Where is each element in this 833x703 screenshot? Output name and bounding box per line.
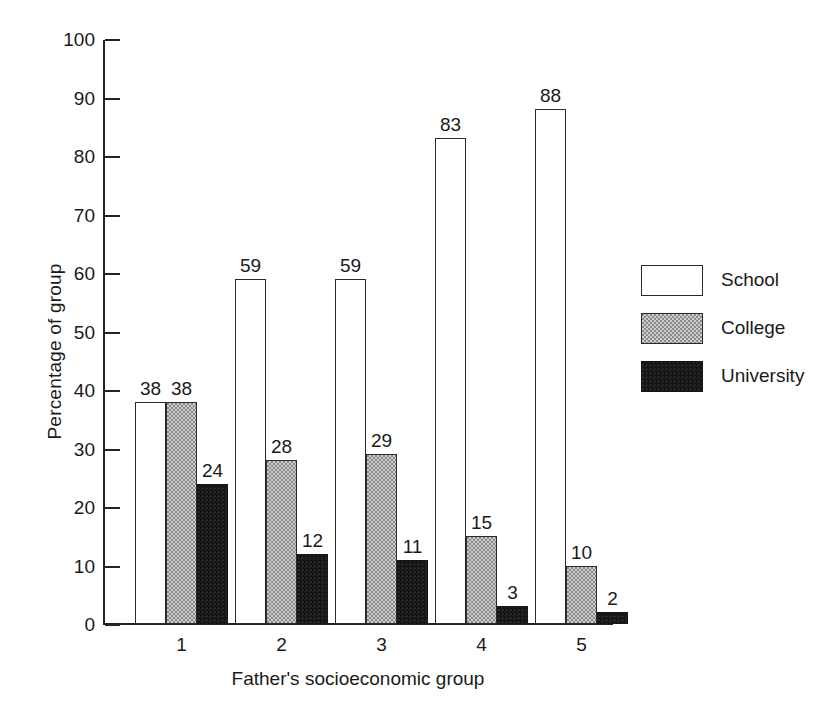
bar-college-group-1	[166, 402, 197, 624]
legend-swatch-university	[641, 361, 703, 392]
y-axis-tick	[105, 507, 120, 509]
bar-value-label: 83	[431, 115, 471, 134]
bar-value-label: 2	[593, 589, 633, 608]
y-axis-tick-label: 90	[43, 89, 95, 108]
bar-university-group-4	[497, 606, 528, 624]
bar-school-group-5	[535, 109, 566, 624]
y-axis-tick-label-text: 10	[43, 557, 95, 576]
y-axis-tick-label: 50	[43, 323, 95, 342]
bar-value-label: 11	[393, 537, 433, 556]
legend-swatch-college	[641, 313, 703, 344]
y-axis-tick	[105, 215, 120, 217]
y-axis-tick	[105, 273, 120, 275]
y-axis-tick-label-text: 40	[43, 381, 95, 400]
bar-university-group-5	[597, 612, 628, 624]
bar-value-label: 29	[362, 431, 402, 450]
y-axis-tick-label-text: 30	[43, 440, 95, 459]
y-axis-tick	[105, 156, 120, 158]
y-axis-tick	[105, 624, 120, 626]
y-axis-tick-label: 80	[43, 147, 95, 166]
bar-school-group-1	[135, 402, 166, 624]
bar-university-group-3	[397, 560, 428, 624]
bar-value-label: 59	[231, 256, 271, 275]
y-axis-tick	[105, 449, 120, 451]
y-axis-tick-label-text: 100	[43, 30, 95, 49]
y-axis-tick	[105, 566, 120, 568]
y-axis-tick-label-text: 20	[43, 498, 95, 517]
y-axis-tick-label: 100	[43, 30, 95, 49]
bar-value-label: 38	[162, 379, 202, 398]
y-axis-tick-label: 30	[43, 440, 95, 459]
y-axis-tick-label-text: 90	[43, 89, 95, 108]
bar-value-label: 59	[331, 256, 371, 275]
y-axis-tick-label-text: 60	[43, 264, 95, 283]
x-axis-title: Father's socioeconomic group	[103, 668, 613, 690]
legend-label: School	[721, 269, 779, 291]
y-axis-tick-label-text: 50	[43, 323, 95, 342]
bar-college-group-3	[366, 454, 397, 624]
x-axis-group-label: 4	[462, 635, 502, 654]
y-axis-tick-label-text: 0	[43, 615, 95, 634]
legend-label: University	[721, 365, 804, 387]
bar-value-label: 12	[293, 531, 333, 550]
bar-chart-figure: Percentage of group 01020304050607080901…	[0, 0, 833, 703]
bar-university-group-2	[297, 554, 328, 624]
y-axis-tick-label: 20	[43, 498, 95, 517]
bar-college-group-4	[466, 536, 497, 624]
y-axis-tick	[105, 332, 120, 334]
bar-college-group-2	[266, 460, 297, 624]
y-axis-tick-label-text: 80	[43, 147, 95, 166]
x-axis-group-label: 2	[262, 635, 302, 654]
bar-value-label: 10	[562, 543, 602, 562]
y-axis-tick-label-text: 70	[43, 206, 95, 225]
bar-school-group-2	[235, 279, 266, 624]
y-axis-tick-label: 0	[43, 615, 95, 634]
bar-value-label: 3	[493, 583, 533, 602]
x-axis-group-label: 5	[562, 635, 602, 654]
y-axis-tick-label: 40	[43, 381, 95, 400]
bar-value-label: 24	[193, 461, 233, 480]
bar-school-group-4	[435, 138, 466, 624]
bar-school-group-3	[335, 279, 366, 624]
plot-area: 0102030405060708090100 38382459281259291…	[103, 40, 613, 625]
bar-value-label: 88	[531, 86, 571, 105]
bar-value-label: 15	[462, 513, 502, 532]
legend-label: College	[721, 317, 785, 339]
x-axis-group-label: 1	[162, 635, 202, 654]
legend-swatch-school	[641, 265, 703, 296]
y-axis-tick	[105, 39, 120, 41]
bar-university-group-1	[197, 484, 228, 624]
y-axis-tick	[105, 98, 120, 100]
bar-college-group-5	[566, 566, 597, 625]
y-axis-tick-label: 60	[43, 264, 95, 283]
y-axis-tick-label: 10	[43, 557, 95, 576]
y-axis-tick-label: 70	[43, 206, 95, 225]
bar-value-label: 28	[262, 437, 302, 456]
y-axis-tick	[105, 390, 120, 392]
x-axis-group-label: 3	[362, 635, 402, 654]
